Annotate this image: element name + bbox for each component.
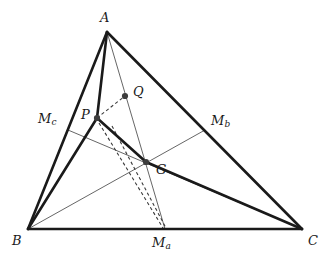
label-Ma-text: M <box>152 235 165 250</box>
label-Mb: Mb <box>211 114 230 129</box>
label-Mb-sub: b <box>225 119 231 129</box>
geometry-figure: A Mc P Q Mb G B Ma C <box>0 0 331 264</box>
label-Mc-text: M <box>38 111 51 126</box>
median-group <box>28 32 302 229</box>
label-C-text: C <box>308 233 318 248</box>
dashed-P-Ma <box>99 123 163 228</box>
label-P-text: P <box>81 107 90 122</box>
label-C: C <box>308 234 318 249</box>
label-Ma-sub: a <box>166 241 171 251</box>
side-AB <box>28 32 107 229</box>
point-dot-P <box>94 115 100 121</box>
label-Q: Q <box>133 85 144 100</box>
median-B-Mb <box>28 130 205 229</box>
label-Mc-sub: c <box>52 117 57 127</box>
label-A: A <box>100 11 110 26</box>
label-Q-text: Q <box>133 84 144 99</box>
segment-PB <box>28 118 97 229</box>
geometry-canvas <box>0 0 331 264</box>
point-dot-Q <box>122 93 128 99</box>
label-P: P <box>81 108 90 123</box>
label-Mb-text: M <box>211 113 224 128</box>
label-B: B <box>12 234 22 249</box>
label-Mc: Mc <box>38 112 57 127</box>
segment-GC <box>146 162 302 229</box>
point-dot-G <box>143 159 149 165</box>
label-G: G <box>156 163 167 178</box>
label-G-text: G <box>156 162 166 177</box>
dashed-P-Q <box>97 96 125 118</box>
label-A-text: A <box>100 10 109 25</box>
label-B-text: B <box>12 233 22 248</box>
label-Ma: Ma <box>152 236 171 251</box>
